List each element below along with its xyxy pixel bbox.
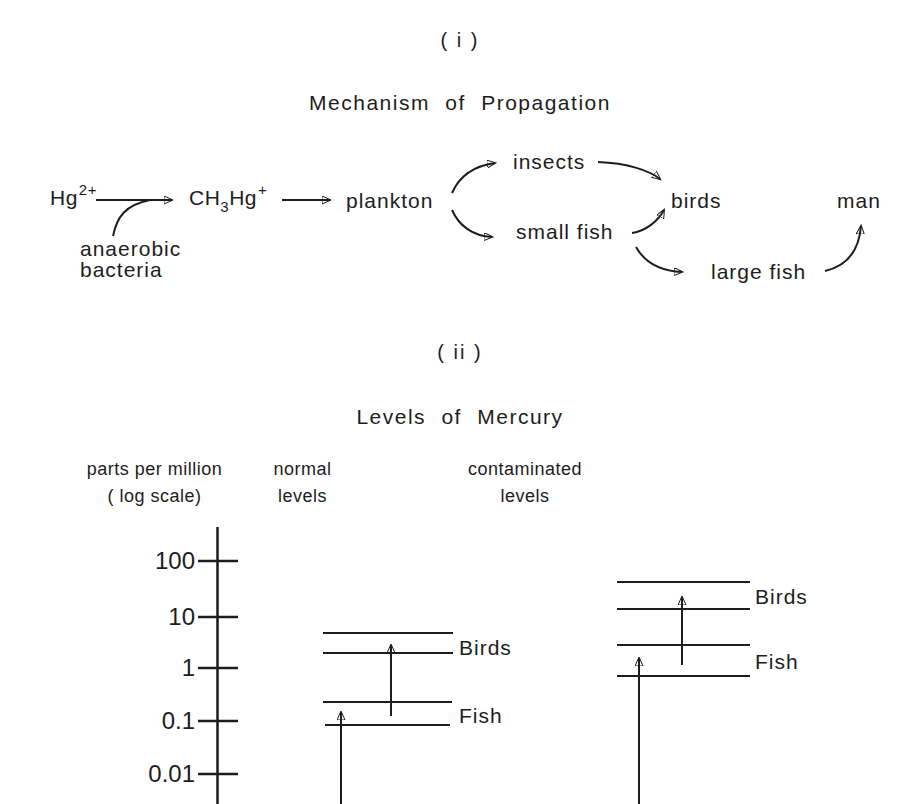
arrow-small-fish-to-large-fish <box>636 247 682 272</box>
label-anaerobic-bacteria: anaerobic bacteria <box>80 238 181 280</box>
log-axis <box>198 527 238 804</box>
node-insects: insects <box>513 150 585 174</box>
part-i-index: ( i ) <box>0 29 920 52</box>
arrow-plankton-to-small-fish <box>452 210 492 237</box>
methylmercury-part2: Hg <box>229 186 257 209</box>
node-small-fish: small fish <box>516 220 614 244</box>
arrow-large-fish-to-man <box>825 226 861 271</box>
tick-label-1: 1 <box>125 656 195 680</box>
normal-fish-label: Fish <box>459 704 503 728</box>
methylmercury-subscript: 3 <box>220 198 229 215</box>
arrow-plankton-to-insects <box>452 163 495 193</box>
part-i-title: Mechanism of Propagation <box>0 91 920 115</box>
arrow-insects-to-birds <box>598 162 660 179</box>
arrow-small-fish-to-birds <box>632 210 664 233</box>
flow-arrows <box>96 162 861 272</box>
node-plankton: plankton <box>346 189 433 213</box>
figure-canvas: ( i ) Mechanism of Propagation Hg2+ CH3H… <box>0 0 920 804</box>
contaminated-column-header: contaminated levels <box>450 456 600 510</box>
contaminated-birds-label: Birds <box>755 585 808 609</box>
tick-label-100: 100 <box>125 549 195 573</box>
normal-birds-label: Birds <box>459 636 512 660</box>
mercury-ion-base: Hg <box>50 186 78 209</box>
methylmercury-part1: CH <box>189 186 220 209</box>
part-ii-title: Levels of Mercury <box>0 405 920 429</box>
node-birds: birds <box>671 189 722 213</box>
normal-column-header: normal levels <box>255 456 350 510</box>
axis-header: parts per million ( log scale) <box>82 456 227 510</box>
node-man: man <box>837 189 881 213</box>
tick-label-0-1: 0.1 <box>125 709 195 733</box>
contaminated-fish-label: Fish <box>755 650 799 674</box>
node-mercury-ion: Hg2+ <box>50 183 97 210</box>
mercury-ion-charge: 2+ <box>79 181 97 198</box>
contaminated-level-bands <box>617 582 750 804</box>
node-methylmercury: CH3Hg+ <box>189 183 267 213</box>
curve-bacteria-to-arrow <box>113 200 150 236</box>
node-large-fish: large fish <box>711 260 806 284</box>
tick-label-0-01: 0.01 <box>125 762 195 786</box>
tick-label-10: 10 <box>125 605 195 629</box>
normal-level-bands <box>323 633 453 804</box>
part-ii-index: ( ii ) <box>0 341 920 364</box>
methylmercury-charge: + <box>258 181 267 198</box>
diagram-lines-layer <box>0 0 920 804</box>
